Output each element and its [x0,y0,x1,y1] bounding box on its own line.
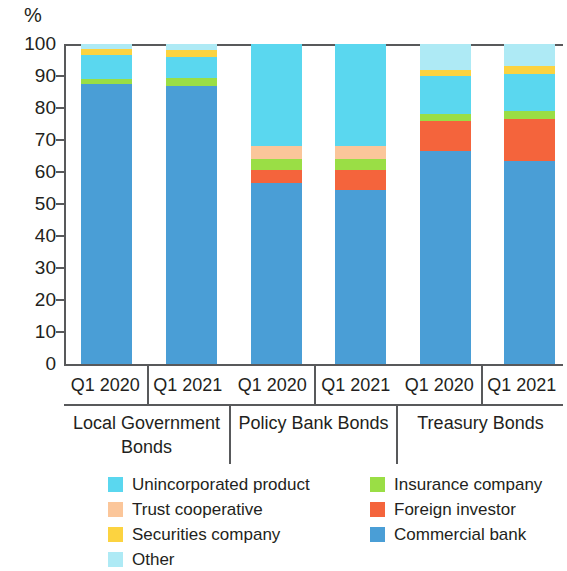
legend-label: Trust cooperative [132,501,263,518]
y-axis-labels: 1009080706050403020100 [0,0,56,556]
y-axis-tick-label: 70 [4,130,56,149]
period-label: Q1 2020 [398,366,481,404]
group-divider [229,406,231,464]
legend-label: Commercial bank [394,526,526,543]
legend-label: Other [132,551,175,568]
y-axis-tick-label: 80 [4,98,56,117]
bar-segment [166,78,217,86]
legend-swatch-icon [108,502,123,517]
bar-segment [420,121,471,151]
y-axis-tick-label: 50 [4,194,56,213]
bar-segment [335,146,386,159]
legend-item[interactable]: Insurance company [370,474,542,495]
y-axis-tick-label: 20 [4,290,56,309]
bar-segment [335,170,386,189]
bar-segment [504,119,555,161]
bar-segment [251,44,302,146]
group-divider [396,406,398,464]
legend-item[interactable]: Trust cooperative [108,499,310,520]
period-divider [481,366,483,404]
bar [335,44,386,364]
period-label: Q1 2021 [314,366,399,404]
legend-swatch-icon [108,552,123,567]
group-label: Local Government Bonds [64,406,229,464]
bar-segment [420,151,471,364]
y-axis-tick-label: 30 [4,258,56,277]
legend-swatch-icon [370,477,385,492]
legend: Unincorporated productTrust cooperativeS… [108,474,558,554]
legend-item[interactable]: Foreign investor [370,499,542,520]
legend-column-right: Insurance companyForeign investorCommerc… [370,474,542,549]
period-divider [147,366,149,404]
bar-segment [420,76,471,114]
legend-item[interactable]: Unincorporated product [108,474,310,495]
legend-label: Securities company [132,526,280,543]
bar-segment [504,66,555,74]
bar-segment [504,44,555,66]
bar-segment [251,159,302,170]
bar-segment [251,170,302,183]
period-label: Q1 2021 [147,366,230,404]
bar-segment [81,84,132,364]
bar-segment [335,44,386,146]
y-axis-tick-label: 100 [4,34,56,53]
legend-swatch-icon [370,502,385,517]
bar-segment [335,190,386,364]
legend-column-left: Unincorporated productTrust cooperativeS… [108,474,310,571]
bar-segment [504,74,555,111]
bar-segment [420,44,471,70]
bar [420,44,471,364]
y-axis-tick-label: 40 [4,226,56,245]
bar-segment [81,55,132,79]
bar [166,44,217,364]
bar-segment [335,159,386,170]
legend-item[interactable]: Commercial bank [370,524,542,545]
y-axis-tick-label: 90 [4,66,56,85]
y-axis-tick-label: 60 [4,162,56,181]
legend-swatch-icon [108,527,123,542]
y-axis-tick-label: 10 [4,322,56,341]
bar [504,44,555,364]
bars-container [64,44,563,364]
bar-segment [166,57,217,78]
y-axis-tick-label: 0 [4,354,56,373]
period-label-band: Q1 2020Q1 2021Q1 2020Q1 2021Q1 2020Q1 20… [64,366,563,404]
legend-swatch-icon [108,477,123,492]
group-label-band: Local Government BondsPolicy Bank BondsT… [64,406,563,464]
legend-label: Unincorporated product [132,476,310,493]
period-label: Q1 2020 [64,366,147,404]
group-label: Policy Bank Bonds [231,406,396,464]
bar-segment [166,86,217,364]
bar-segment [251,146,302,159]
period-label: Q1 2021 [481,366,564,404]
bar-segment [504,111,555,119]
bar [81,44,132,364]
period-label: Q1 2020 [231,366,314,404]
legend-label: Insurance company [394,476,542,493]
legend-item[interactable]: Securities company [108,524,310,545]
legend-label: Foreign investor [394,501,516,518]
bar-segment [504,161,555,364]
bar-segment [251,183,302,364]
group-label: Treasury Bonds [398,406,563,464]
legend-item[interactable]: Other [108,549,310,570]
legend-swatch-icon [370,527,385,542]
bar [251,44,302,364]
period-divider [314,366,316,404]
